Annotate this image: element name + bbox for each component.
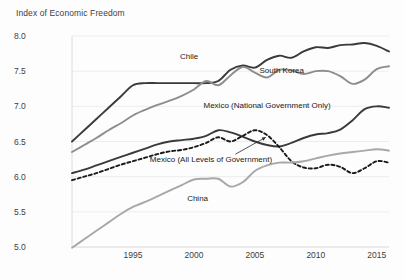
series-label-mexico-national-government-only: Mexico (National Government Only) [203,100,330,109]
plot-area [0,0,404,280]
chart-container: Index of Economic Freedom 8.07.57.06.56.… [0,0,404,280]
series-label-china: China [187,193,208,202]
series-label-chile: Chile [180,51,198,60]
series-line-china [72,149,389,247]
series-label-mexico-all-levels-of-government: Mexico (All Levels of Government) [150,155,272,164]
series-label-south-korea: South Korea [259,65,303,74]
series-line-chile [72,43,389,141]
